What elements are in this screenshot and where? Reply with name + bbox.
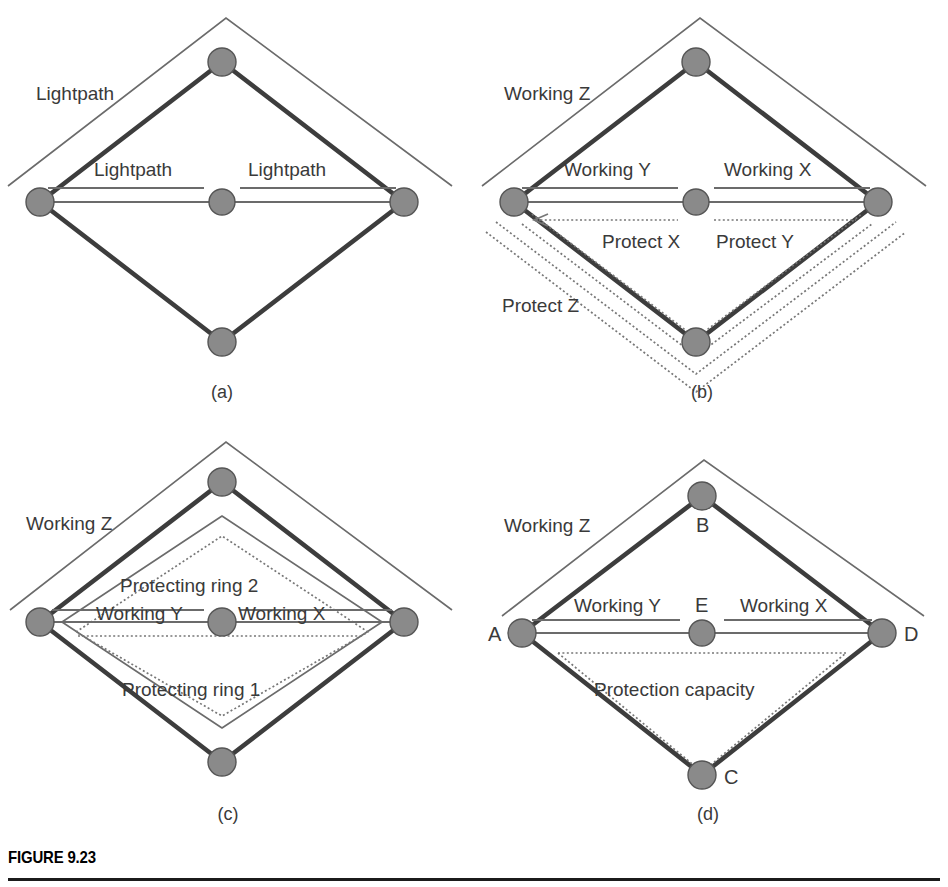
node-C: [688, 761, 716, 789]
node-E: [208, 608, 236, 636]
node-B: [208, 48, 236, 76]
label-working-y: Working Y: [564, 159, 651, 180]
working-z-line: [502, 460, 924, 616]
panel-a: Lightpath Lightpath Lightpath (a): [0, 0, 474, 420]
node-D: [868, 619, 896, 647]
node-C: [682, 328, 710, 356]
node-E: [683, 189, 709, 215]
label-working-z: Working Z: [504, 515, 591, 536]
protection-capacity-path: [558, 653, 846, 772]
node-D: [390, 188, 418, 216]
panel-b: Working Z Working Y Working X Protect X …: [474, 0, 948, 420]
label-working-y: Working Y: [574, 595, 661, 616]
node-A: [26, 608, 54, 636]
node-C: [208, 328, 236, 356]
node-A: [508, 619, 536, 647]
label-lightpath-z: Lightpath: [36, 83, 114, 104]
node-label-B: B: [696, 514, 709, 536]
panel-caption-c: (c): [218, 804, 239, 824]
node-A: [26, 188, 54, 216]
label-protect-z: Protect Z: [502, 295, 579, 316]
panel-d: A B C D E Working Z Working Y Working X …: [474, 420, 948, 840]
label-working-x: Working X: [740, 595, 828, 616]
label-working-y: Working Y: [96, 603, 183, 624]
node-A: [500, 188, 528, 216]
node-label-E: E: [695, 594, 708, 616]
node-D: [864, 188, 892, 216]
label-protecting-ring-2: Protecting ring 2: [120, 575, 258, 596]
protect-inner-path-1: [532, 214, 862, 338]
node-B: [208, 468, 236, 496]
node-B: [688, 482, 716, 510]
figure-9-23: Lightpath Lightpath Lightpath (a): [0, 0, 948, 887]
panel-caption-a: (a): [211, 382, 233, 402]
label-protecting-ring-1: Protecting ring 1: [122, 679, 260, 700]
node-label-C: C: [724, 766, 738, 788]
node-E: [209, 189, 235, 215]
panel-caption-b: (b): [691, 382, 713, 402]
node-B: [682, 48, 710, 76]
node-label-A: A: [488, 623, 502, 645]
figure-label: FIGURE 9.23: [8, 848, 96, 868]
node-D: [390, 608, 418, 636]
label-protect-x: Protect X: [602, 231, 680, 252]
node-E: [689, 620, 715, 646]
label-working-x: Working X: [238, 603, 326, 624]
label-lightpath-y: Lightpath: [94, 159, 172, 180]
label-lightpath-x: Lightpath: [248, 159, 326, 180]
figure-rule: [8, 878, 940, 881]
label-protect-y: Protect Y: [716, 231, 794, 252]
label-working-x: Working X: [724, 159, 812, 180]
label-protection-capacity: Protection capacity: [594, 679, 755, 700]
panel-grid: Lightpath Lightpath Lightpath (a): [0, 0, 948, 840]
node-label-D: D: [904, 623, 918, 645]
label-working-z: Working Z: [504, 83, 591, 104]
label-working-z: Working Z: [26, 513, 113, 534]
panel-c: Working Z Protecting ring 2 Working Y Wo…: [0, 420, 474, 840]
panel-caption-d: (d): [697, 804, 719, 824]
figure-caption-block: FIGURE 9.23: [0, 840, 948, 887]
node-C: [208, 748, 236, 776]
